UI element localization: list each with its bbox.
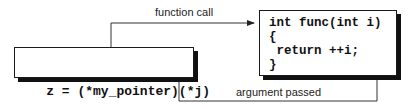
code-line-open-brace: {	[269, 30, 277, 44]
function-call-label: function call	[155, 6, 213, 18]
caller-code-box: z = (*my_pointer)(*j)	[14, 47, 194, 78]
pointer-call-diagram: function call argument passed z = (*my_p…	[0, 0, 414, 109]
function-call-arrow	[111, 23, 254, 47]
code-line-signature: int func(int i)	[269, 16, 382, 30]
caller-code: z = (*my_pointer)(*j)	[46, 84, 210, 99]
code-line-close-brace: }	[269, 58, 277, 72]
argument-passed-label: argument passed	[236, 86, 321, 98]
callee-function-box: int func(int i) { return ++i; }	[259, 10, 397, 76]
code-line-return: return ++i;	[269, 44, 359, 58]
